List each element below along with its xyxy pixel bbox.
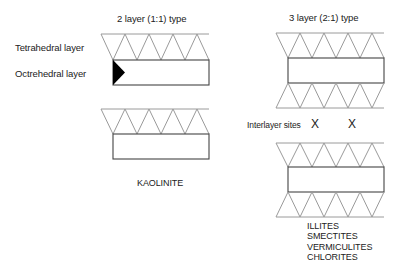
tetrahedral-layer-label: Tetrahedral layer [15,42,84,53]
mineral-list: ILLITES SMECTITES VERMICULITES CHLORITES [307,221,372,262]
octahedral-sheet [288,58,384,83]
octahedral-sheet [288,167,384,192]
tetrahedral-sheet [101,34,209,60]
mineral-vermiculites: VERMICULITES [307,242,372,252]
two-to-one-layer-2 [276,143,384,217]
octahedral-layer-label: Octrehedral layer [15,68,86,79]
left-panel-heading: 2 layer (1:1) type [117,13,186,24]
kaolinite-layer-1 [101,34,209,85]
two-to-one-layer-1 [276,33,384,108]
octahedral-sheet [113,134,209,159]
mineral-smectites: SMECTITES [307,231,372,241]
interlayer-site-mark: X [348,117,356,131]
interlayer-site-mark: X [311,117,319,131]
interlayer-sites-label: Interlayer sites [247,120,301,130]
mineral-chlorites: CHLORITES [307,252,372,262]
kaolinite-layer-2 [101,109,209,159]
upper-tetrahedral-sheet [276,143,384,167]
lower-tetrahedral-sheet [276,83,384,108]
mineral-illites: ILLITES [307,221,372,231]
upper-tetrahedral-sheet [276,33,384,58]
tetrahedral-sheet [101,109,209,134]
right-panel-heading: 3 layer (2:1) type [289,12,358,23]
kaolinite-label: KAOLINITE [137,178,183,188]
lower-tetrahedral-sheet [276,192,384,217]
octahedral-sheet [113,60,209,85]
